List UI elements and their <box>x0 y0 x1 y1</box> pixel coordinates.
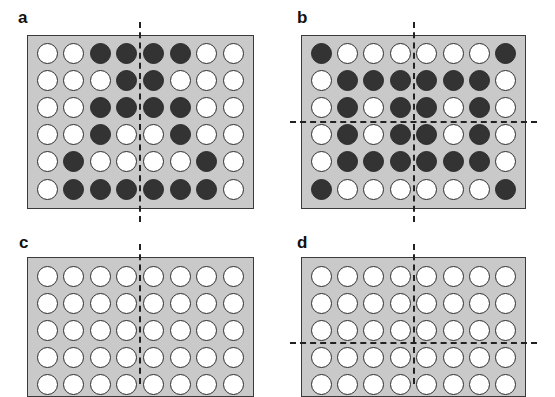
well-d-r2c1 <box>311 293 332 314</box>
well-d-r1c8 <box>495 266 516 287</box>
well-b-r1c7 <box>469 43 490 64</box>
well-a-r2c4 <box>116 70 137 91</box>
well-a-r1c3 <box>90 43 111 64</box>
well-a-r3c1 <box>37 97 58 118</box>
panel-label-c: c <box>19 234 28 251</box>
well-d-r4c6 <box>443 347 464 368</box>
well-b-r3c6 <box>443 97 464 118</box>
well-d-r2c3 <box>363 293 384 314</box>
well-a-r4c3 <box>90 124 111 145</box>
well-a-r3c5 <box>143 97 164 118</box>
well-b-r5c6 <box>443 151 464 172</box>
well-b-r4c1 <box>311 124 332 145</box>
well-a-r6c3 <box>90 179 111 200</box>
well-a-r1c1 <box>37 43 58 64</box>
well-d-r3c3 <box>363 320 384 341</box>
well-d-r5c2 <box>337 374 358 395</box>
well-d-r2c4 <box>390 293 411 314</box>
well-a-r2c2 <box>63 70 84 91</box>
well-c-r5c7 <box>196 374 217 395</box>
vertical-symmetry-axis-a <box>139 22 141 222</box>
well-b-r1c5 <box>416 43 437 64</box>
well-d-r4c3 <box>363 347 384 368</box>
well-c-r1c6 <box>170 266 191 287</box>
well-b-r6c8 <box>495 179 516 200</box>
well-a-r6c1 <box>37 179 58 200</box>
well-c-r4c2 <box>63 347 84 368</box>
well-d-r3c7 <box>469 320 490 341</box>
well-c-r2c6 <box>170 293 191 314</box>
well-b-r3c7 <box>469 97 490 118</box>
well-c-r1c5 <box>143 266 164 287</box>
well-a-r2c3 <box>90 70 111 91</box>
well-b-r6c2 <box>337 179 358 200</box>
well-b-r3c2 <box>337 97 358 118</box>
well-d-r1c7 <box>469 266 490 287</box>
panel-label-b: b <box>297 9 307 26</box>
well-c-r2c8 <box>223 293 244 314</box>
well-d-r1c6 <box>443 266 464 287</box>
well-b-r1c8 <box>495 43 516 64</box>
well-c-r5c1 <box>37 374 58 395</box>
well-b-r1c2 <box>337 43 358 64</box>
well-a-r1c6 <box>170 43 191 64</box>
well-a-r3c3 <box>90 97 111 118</box>
well-d-r3c2 <box>337 320 358 341</box>
well-a-r6c2 <box>63 179 84 200</box>
well-b-r6c6 <box>443 179 464 200</box>
well-d-r5c3 <box>363 374 384 395</box>
well-c-r3c3 <box>90 320 111 341</box>
well-d-r5c5 <box>416 374 437 395</box>
well-b-r5c4 <box>390 151 411 172</box>
well-c-r1c7 <box>196 266 217 287</box>
well-b-r2c6 <box>443 70 464 91</box>
well-a-r5c3 <box>90 151 111 172</box>
well-c-r3c4 <box>116 320 137 341</box>
well-a-r5c1 <box>37 151 58 172</box>
well-c-r4c4 <box>116 347 137 368</box>
well-c-r1c1 <box>37 266 58 287</box>
well-b-r6c3 <box>363 179 384 200</box>
well-d-r5c4 <box>390 374 411 395</box>
well-c-r1c4 <box>116 266 137 287</box>
well-c-r2c3 <box>90 293 111 314</box>
well-b-r2c1 <box>311 70 332 91</box>
horizontal-symmetry-axis-d <box>290 342 537 344</box>
well-b-r4c2 <box>337 124 358 145</box>
well-c-r5c6 <box>170 374 191 395</box>
well-d-r1c4 <box>390 266 411 287</box>
well-c-r3c7 <box>196 320 217 341</box>
well-c-r1c8 <box>223 266 244 287</box>
well-c-r4c7 <box>196 347 217 368</box>
well-b-r2c4 <box>390 70 411 91</box>
well-d-r4c1 <box>311 347 332 368</box>
well-b-r4c4 <box>390 124 411 145</box>
well-b-r2c3 <box>363 70 384 91</box>
panel-label-d: d <box>297 234 307 251</box>
well-a-r6c5 <box>143 179 164 200</box>
well-c-r2c7 <box>196 293 217 314</box>
well-c-r3c2 <box>63 320 84 341</box>
well-a-r4c6 <box>170 124 191 145</box>
well-d-r3c4 <box>390 320 411 341</box>
well-c-r4c3 <box>90 347 111 368</box>
well-a-r3c7 <box>196 97 217 118</box>
well-c-r3c5 <box>143 320 164 341</box>
well-d-r5c6 <box>443 374 464 395</box>
well-b-r3c5 <box>416 97 437 118</box>
well-b-r6c4 <box>390 179 411 200</box>
horizontal-symmetry-axis-b <box>290 121 537 123</box>
well-b-r6c7 <box>469 179 490 200</box>
well-d-r3c5 <box>416 320 437 341</box>
well-c-r2c4 <box>116 293 137 314</box>
well-b-r1c1 <box>311 43 332 64</box>
vertical-symmetry-axis-c <box>139 244 141 384</box>
well-c-r2c2 <box>63 293 84 314</box>
well-d-r4c7 <box>469 347 490 368</box>
well-b-r6c1 <box>311 179 332 200</box>
panel-label-a: a <box>18 9 27 26</box>
well-a-r4c1 <box>37 124 58 145</box>
well-b-r6c5 <box>416 179 437 200</box>
well-d-r4c2 <box>337 347 358 368</box>
well-a-r6c6 <box>170 179 191 200</box>
